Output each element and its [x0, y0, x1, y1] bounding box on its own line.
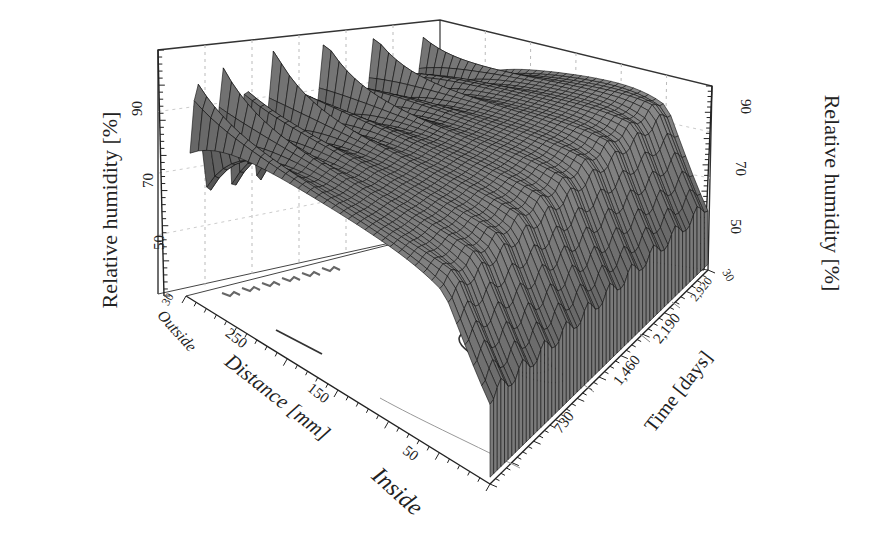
left-tick-50: 50	[151, 235, 168, 250]
surface-mesh	[190, 37, 708, 404]
left-tick-70: 70	[140, 173, 157, 188]
left-axis-title: Relative humidity [%]	[97, 110, 123, 310]
right-tick-90: 90	[737, 99, 754, 114]
right-tick-70: 70	[732, 161, 749, 176]
chart-canvas	[0, 0, 882, 557]
left-tick-90: 90	[129, 101, 146, 116]
right-tick-50: 50	[727, 219, 744, 234]
surface-chart: Relative humidity [%] 90 70 50 30 Relati…	[0, 0, 882, 557]
right-axis-title: Relative humidity [%]	[819, 93, 845, 293]
